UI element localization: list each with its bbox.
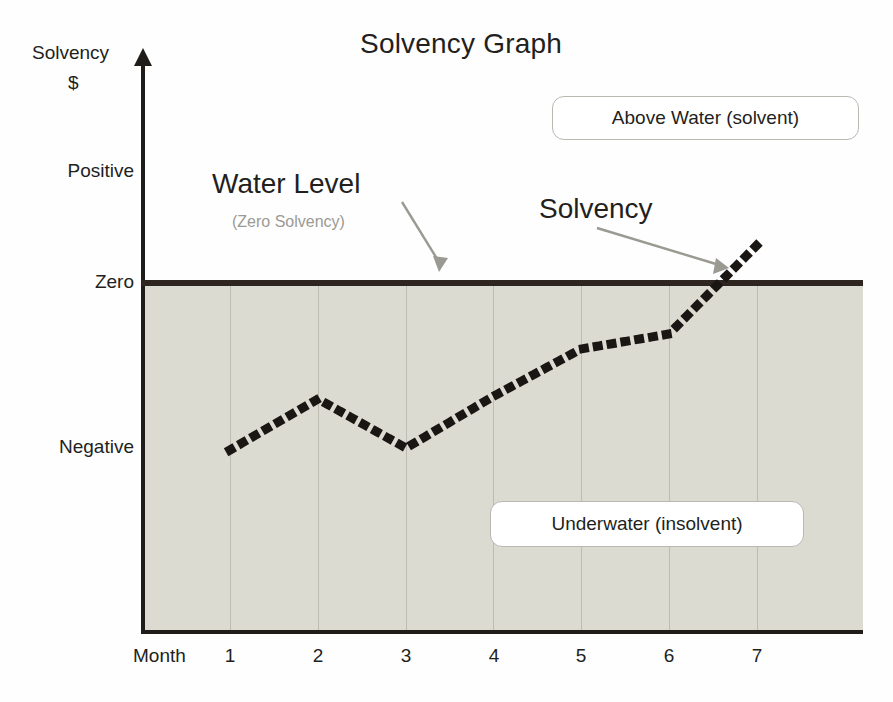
- solvency-chart-figure: Solvency Graph Solvency $ Positive Zero …: [0, 0, 893, 702]
- gridline-month-3: [318, 285, 319, 630]
- annotation-zero-solvency: (Zero Solvency): [232, 213, 345, 231]
- annotation-water-level: Water Level: [212, 168, 360, 200]
- callout-underwater: Underwater (insolvent): [490, 501, 804, 547]
- y-axis-line: [141, 62, 145, 633]
- gridline-month-6: [581, 285, 582, 630]
- chart-title: Solvency Graph: [360, 28, 562, 60]
- x-tick-1: 1: [215, 645, 245, 667]
- water-level-reference-line: [141, 280, 863, 286]
- gridline-month-8: [757, 285, 758, 630]
- x-tick-3: 3: [391, 645, 421, 667]
- underwater-plot-area: [145, 285, 863, 630]
- y-axis-unit: $: [68, 72, 79, 94]
- y-tick-negative: Negative: [24, 436, 134, 458]
- y-tick-zero: Zero: [24, 271, 134, 293]
- gridline-month-2: [230, 285, 231, 630]
- x-tick-5: 5: [566, 645, 596, 667]
- annotation-solvency: Solvency: [539, 193, 653, 225]
- x-tick-6: 6: [654, 645, 684, 667]
- y-axis-arrow-icon: [134, 48, 152, 66]
- x-axis-title: Month: [133, 645, 186, 667]
- y-tick-positive: Positive: [24, 160, 134, 182]
- callout-above-water: Above Water (solvent): [552, 96, 859, 140]
- x-tick-4: 4: [479, 645, 509, 667]
- gridline-month-4: [406, 285, 407, 630]
- gridline-month-7: [669, 285, 670, 630]
- gridline-month-5: [493, 285, 494, 630]
- solvency-annotation-arrow-icon: [597, 228, 729, 274]
- x-axis-line: [141, 630, 863, 634]
- x-tick-2: 2: [303, 645, 333, 667]
- y-axis-title: Solvency: [32, 42, 109, 64]
- water-level-annotation-arrow-icon: [402, 202, 448, 272]
- x-tick-7: 7: [742, 645, 772, 667]
